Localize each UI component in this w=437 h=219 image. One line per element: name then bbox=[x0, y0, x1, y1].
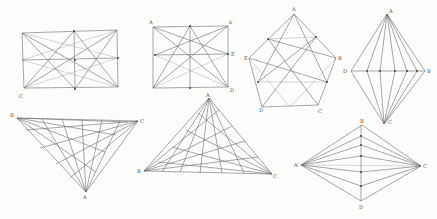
inverted-triangle-figure: B C A bbox=[10, 112, 144, 200]
label-b: B bbox=[427, 68, 431, 74]
label-c: C bbox=[388, 119, 392, 125]
label-a: A bbox=[291, 6, 296, 12]
label-c: C bbox=[19, 93, 23, 99]
label-b: B bbox=[360, 118, 364, 124]
label-c: C bbox=[423, 163, 427, 169]
label-b: b bbox=[229, 19, 232, 25]
label-a: A bbox=[82, 194, 87, 200]
label-b: B bbox=[137, 168, 141, 174]
label-a: A bbox=[293, 162, 298, 168]
label-c: C bbox=[318, 108, 322, 114]
rectangle-star-figure: C bbox=[19, 30, 119, 99]
pentagon-star-figure: A B C D E bbox=[244, 6, 342, 114]
label-d: D bbox=[230, 87, 234, 93]
label-a: A bbox=[205, 92, 210, 98]
square-star-figure: A b E D bbox=[148, 19, 235, 93]
label-a: A bbox=[148, 19, 153, 25]
rhombus-horizontal-figure: A B C D bbox=[293, 118, 427, 210]
label-d: D bbox=[359, 204, 363, 210]
label-b: B bbox=[10, 112, 14, 118]
string-art-diagrams: C A b E D A B C bbox=[0, 0, 437, 219]
label-a: A bbox=[388, 8, 393, 14]
label-d: D bbox=[259, 107, 263, 113]
label-d: D bbox=[343, 68, 347, 74]
rhombus-vertical-figure: A B C D bbox=[343, 8, 431, 125]
label-e: E bbox=[231, 51, 235, 57]
label-e: E bbox=[244, 55, 248, 61]
label-c: C bbox=[273, 173, 277, 179]
label-b: B bbox=[338, 55, 342, 61]
label-c: C bbox=[140, 118, 144, 124]
triangle-figure: A B C bbox=[137, 92, 277, 179]
